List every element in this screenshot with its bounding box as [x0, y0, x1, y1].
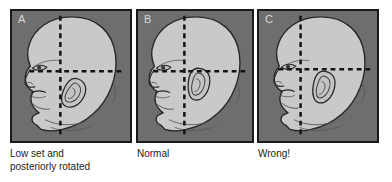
infant-head-profile-a [12, 11, 130, 141]
infant-head-profile-c [259, 11, 377, 141]
panel-c-letter: C [265, 13, 273, 25]
panel-b: B [136, 9, 254, 143]
panel-b-letter: B [144, 13, 152, 25]
head-silhouette-a [25, 17, 116, 131]
ear-position-figure: A [0, 0, 392, 182]
panel-a-letter: A [18, 13, 26, 25]
panel-row: A [0, 0, 392, 144]
infant-head-profile-b [138, 11, 252, 141]
caption-row: Low set and posteriorly rotated Normal W… [0, 144, 392, 182]
caption-panel-a: Low set and posteriorly rotated [10, 148, 134, 173]
caption-panel-b: Normal [137, 148, 257, 161]
caption-panel-c: Wrong! [258, 148, 382, 161]
panel-c: C [257, 9, 379, 143]
panel-a: A [10, 9, 132, 143]
